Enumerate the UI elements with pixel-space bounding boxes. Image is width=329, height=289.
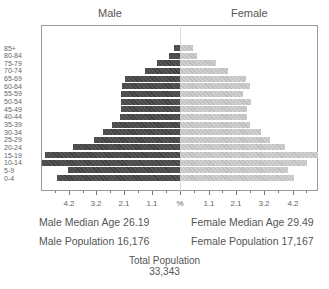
female-bar: [180, 53, 197, 59]
female-bar: [180, 60, 216, 66]
male-median-age: Male Median Age 26.19: [39, 216, 149, 228]
age-label: 5-9: [4, 167, 36, 174]
male-bar: [94, 137, 180, 143]
female-bar: [180, 106, 247, 112]
age-label: 70-74: [4, 67, 36, 74]
female-bar: [180, 152, 318, 158]
age-label: 65-69: [4, 75, 36, 82]
female-bar: [180, 68, 228, 74]
tick-label: 2.1: [230, 199, 241, 208]
tick-label: 2.1: [118, 199, 129, 208]
male-bar: [121, 99, 180, 105]
age-label: 25-29: [4, 136, 36, 143]
age-label: 45-49: [4, 106, 36, 113]
tick-mark: [293, 191, 294, 195]
minor-tick-mark: [110, 191, 111, 193]
tick-mark: [152, 191, 153, 195]
age-label: 20-24: [4, 144, 36, 151]
age-label: 50-54: [4, 98, 36, 105]
female-bar: [180, 137, 270, 143]
female-population: Female Population 17,167: [191, 235, 314, 247]
male-bar: [157, 60, 180, 66]
female-header: Female: [231, 7, 268, 19]
minor-tick-mark: [166, 191, 167, 193]
age-label: 0-4: [4, 175, 36, 182]
total-population-label: Total Population: [0, 255, 329, 266]
female-bar: [180, 45, 193, 51]
tick-label: 1.1: [203, 199, 214, 208]
tick-mark: [96, 191, 97, 195]
female-median-age: Female Median Age 29.49: [191, 216, 314, 228]
age-label: 55-59: [4, 90, 36, 97]
tick-mark: [264, 191, 265, 195]
age-label: 80-84: [4, 52, 36, 59]
age-label: 30-34: [4, 129, 36, 136]
male-bar: [125, 76, 180, 82]
male-bar: [42, 160, 180, 166]
tick-mark: [180, 191, 181, 195]
age-label: 40-44: [4, 113, 36, 120]
male-bar: [122, 83, 180, 89]
age-label: 10-14: [4, 159, 36, 166]
minor-tick-mark: [306, 191, 307, 193]
tick-label: 4.2: [63, 199, 74, 208]
female-bar: [180, 167, 288, 173]
male-bar: [68, 167, 180, 173]
female-bar: [180, 144, 285, 150]
male-bar: [57, 175, 180, 181]
female-bar: [180, 122, 250, 128]
tick-label: 1.1: [146, 199, 157, 208]
tick-mark: [209, 191, 210, 195]
female-bar: [180, 76, 246, 82]
minor-tick-mark: [138, 191, 139, 193]
minor-tick-mark: [83, 191, 84, 193]
male-bar: [73, 144, 180, 150]
male-bar: [169, 53, 180, 59]
female-bar: [180, 83, 250, 89]
tick-label: %: [176, 199, 183, 208]
male-bar: [145, 68, 180, 74]
minor-tick-mark: [222, 191, 223, 193]
female-bar: [180, 99, 251, 105]
age-label: 15-19: [4, 152, 36, 159]
male-bar: [121, 91, 180, 97]
female-bar: [180, 91, 243, 97]
male-header: Male: [98, 7, 122, 19]
female-bar: [180, 160, 307, 166]
total-population-value: 33,343: [0, 266, 329, 277]
male-bar: [45, 152, 180, 158]
male-population: Male Population 16,176: [39, 235, 149, 247]
tick-label: 3.2: [258, 199, 269, 208]
female-bar: [180, 114, 247, 120]
minor-tick-mark: [55, 191, 56, 193]
minor-tick-mark: [250, 191, 251, 193]
minor-tick-mark: [194, 191, 195, 193]
female-bar: [180, 129, 261, 135]
age-label: 35-39: [4, 121, 36, 128]
female-bar: [180, 175, 294, 181]
age-label: 85+: [4, 45, 36, 52]
minor-tick-mark: [278, 191, 279, 193]
tick-label: 4.2: [287, 199, 298, 208]
age-label: 75-79: [4, 60, 36, 67]
male-bar: [112, 122, 180, 128]
male-bar: [121, 106, 180, 112]
tick-mark: [69, 191, 70, 195]
tick-label: 3.2: [90, 199, 101, 208]
male-bar: [120, 114, 180, 120]
tick-mark: [124, 191, 125, 195]
age-label: 60-64: [4, 83, 36, 90]
tick-mark: [236, 191, 237, 195]
male-bar: [103, 129, 180, 135]
